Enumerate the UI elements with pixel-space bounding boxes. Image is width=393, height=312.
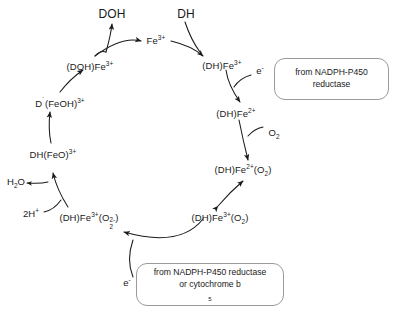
- callout-bottom-line2-sub: 5: [208, 296, 211, 302]
- node-d-radical-feoh-body: (FeOH): [45, 98, 77, 109]
- node-dh-fe3-charge: 3+: [234, 59, 242, 66]
- callout-bottom-line2-prefix: or cytochrome b: [154, 279, 267, 291]
- arrow-resonance-dhfe2o2-dhfe3o2: [218, 181, 243, 206]
- node-dh-fe3-o2-close: ): [245, 212, 248, 223]
- label-electron-bottom: e-: [123, 278, 131, 288]
- node-dh-fe2-charge: 2+: [248, 107, 256, 114]
- node-dh-feo: DH(FeO)3+: [30, 150, 77, 160]
- node-doh-label: DOH: [99, 7, 126, 21]
- node-dh-fe3-peroxo-open: (O: [99, 212, 110, 223]
- arrow-electron-top-in: [234, 75, 251, 87]
- arrow-dh-substrate-in: [185, 22, 200, 52]
- arrow-fe3-to-dhfe3: [171, 41, 203, 56]
- label-protons: 2H+: [23, 209, 39, 219]
- arrow-dohfe3-to-fe3: [95, 40, 141, 56]
- label-protons-charge: +: [35, 207, 39, 214]
- label-oxygen-sub: 2: [276, 133, 280, 140]
- arrow-dfeoh-to-dohfe3: [60, 70, 83, 92]
- node-d-radical-feoh-charge: 3+: [77, 97, 85, 104]
- callout-top-line2: reductase: [295, 79, 368, 91]
- arrow-protons-in: [44, 200, 61, 212]
- node-dh-fe2-o2-open: (O: [254, 164, 265, 175]
- arrow-dhfe3o2-to-dhfeo: [53, 173, 68, 207]
- node-dh-fe3-peroxo-close: ): [115, 212, 118, 223]
- callout-bottom-line2: or cytochrome b5: [154, 279, 267, 303]
- callout-bottom-line1: from NADPH-P450 reductase: [154, 267, 267, 279]
- node-d-radical-feoh: D˙(FeOH)3+: [35, 99, 84, 109]
- node-dh-fe2-o2-label: (DH)Fe: [214, 164, 246, 175]
- callout-nadph-reductase-cytochrome-bottom: from NADPH-P450 reductase or cytochrome …: [136, 263, 284, 306]
- arrow-o2-in: [248, 127, 263, 136]
- label-oxygen: O2: [268, 128, 279, 138]
- label-electron-top-charge: -: [262, 64, 264, 71]
- node-dh-fe3-o2-open: (O: [231, 212, 242, 223]
- node-dh-fe3-o2: (DH)Fe3+(O2): [191, 213, 248, 223]
- label-protons-h: 2H: [23, 208, 35, 219]
- node-doh-fe3-charge: 3+: [106, 60, 114, 67]
- label-electron-top: e-: [256, 66, 264, 76]
- label-water-h: H: [7, 176, 14, 187]
- node-doh-product: DOH: [99, 8, 126, 20]
- node-dh-fe3-peroxo-sub: 2: [109, 224, 113, 230]
- node-dh-fe3-peroxo-label: (DH)Fe: [59, 212, 91, 223]
- label-water-o: O: [18, 176, 26, 187]
- arrow-water-out: [27, 182, 48, 183]
- node-dh-fe3-o2-label: (DH)Fe: [191, 212, 223, 223]
- arrow-dhfe2-to-dhfe2o2: [239, 120, 248, 160]
- node-fe3: Fe3+: [147, 36, 166, 46]
- node-dh-fe2-o2: (DH)Fe2+(O2): [214, 165, 271, 175]
- node-fe3-charge: 3+: [158, 34, 166, 41]
- label-oxygen-o: O: [268, 127, 276, 138]
- callout-top-line1: from NADPH-P450: [295, 67, 368, 79]
- arrow-dhfeo-to-dfeoh: [49, 112, 51, 143]
- node-dh-fe3: (DH)Fe3+: [202, 61, 241, 71]
- label-electron-bottom-charge: -: [129, 276, 131, 283]
- node-dh-label: DH: [177, 7, 195, 21]
- label-water: H2O: [7, 177, 25, 187]
- node-dh-feo-label: DH(FeO): [30, 149, 69, 160]
- arrow-electron-bottom-in: [130, 240, 134, 277]
- node-doh-fe3-label: (DOH)Fe: [67, 61, 106, 72]
- node-dh-fe3-label: (DH)Fe: [202, 60, 234, 71]
- node-dh-substrate: DH: [177, 8, 195, 20]
- node-dh-fe2-o2-close: ): [268, 164, 271, 175]
- arrow-dhfe3-to-dhfe2: [226, 70, 240, 102]
- node-fe3-label: Fe: [147, 35, 158, 46]
- callout-nadph-reductase-top: from NADPH-P450 reductase: [274, 58, 389, 100]
- node-doh-fe3: (DOH)Fe3+: [67, 62, 114, 72]
- node-dh-feo-charge: 3+: [69, 148, 77, 155]
- node-dh-fe2: (DH)Fe2+: [216, 109, 255, 119]
- p450-cycle-diagram: DOH DH Fe3+ (DH)Fe3+ (DH)Fe2+ (DH)Fe2+(O…: [0, 0, 393, 312]
- node-dh-fe3-peroxo: (DH)Fe3+(O2-2): [59, 213, 118, 223]
- node-dh-fe2-label: (DH)Fe: [216, 108, 248, 119]
- node-d-radical-feoh-d: D: [35, 98, 42, 109]
